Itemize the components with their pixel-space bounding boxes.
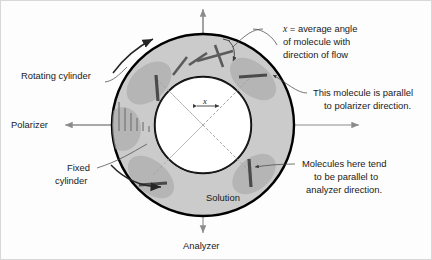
callout-analyzer-parallel: Molecules here tend to be parallel to an…: [302, 158, 386, 195]
birefringence-diagram: x: [0, 0, 432, 260]
label-polarizer: Polarizer: [11, 119, 48, 130]
callout-analyzer-parallel-line2: to be parallel to: [314, 171, 378, 182]
leader-average-angle: [253, 29, 277, 45]
label-fixed-cylinder-line2: cylinder: [55, 175, 87, 186]
callout-average-angle: x = average angle of molecule with direc…: [282, 23, 357, 60]
callout-polarizer-parallel-line1: This molecule is parallel: [313, 87, 413, 98]
callout-analyzer-parallel-line1: Molecules here tend: [302, 158, 386, 169]
callout-average-angle-line1-rest: = average angle: [287, 23, 357, 34]
callout-polarizer-parallel: This molecule is parallel to polarizer d…: [313, 87, 413, 111]
label-fixed-cylinder-line1: Fixed: [67, 162, 90, 173]
label-rotating-cylinder: Rotating cylinder: [21, 70, 91, 81]
callout-average-angle-line3: direction of flow: [283, 49, 348, 60]
callout-analyzer-parallel-line3: analyzer direction.: [306, 184, 382, 195]
label-analyzer: Analyzer: [183, 240, 219, 251]
molecule-se-vertical: [249, 159, 251, 187]
svg-text:x = average angle: x = average angle: [282, 23, 357, 34]
molecule-nw-vertical: [156, 75, 158, 101]
callout-average-angle-line2: of molecule with: [283, 36, 350, 47]
callout-polarizer-parallel-line2: to polarizer direction.: [324, 100, 411, 111]
molecule-ne-horizontal: [239, 75, 267, 77]
angle-x-label: x: [202, 96, 207, 106]
label-solution: Solution: [206, 192, 240, 203]
